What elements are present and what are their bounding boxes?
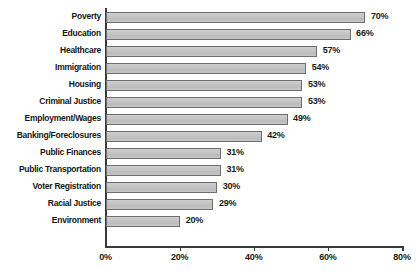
x-axis-tick-label: 0% <box>99 252 112 262</box>
category-label: Voter Registration <box>0 181 101 192</box>
horizontal-bar-chart: Poverty70%Education66%Healthcare57%Immig… <box>0 0 417 280</box>
x-axis-tick-label: 20% <box>171 252 188 262</box>
bar-row: Racial Justice29% <box>0 196 417 213</box>
category-label: Public Transportation <box>0 164 101 175</box>
bar <box>106 148 221 159</box>
bar <box>106 80 302 91</box>
bar-value-label: 70% <box>371 11 388 22</box>
bar <box>106 12 365 23</box>
bar-row: Banking/Foreclosures42% <box>0 128 417 145</box>
category-label: Banking/Foreclosures <box>0 130 101 141</box>
x-axis-tick-label: 60% <box>319 252 336 262</box>
bar-value-label: 31% <box>226 147 243 158</box>
bar <box>106 29 351 40</box>
bar <box>106 131 262 142</box>
bar-row: Healthcare57% <box>0 43 417 60</box>
bar-value-label: 54% <box>312 62 329 73</box>
bar-value-label: 20% <box>186 215 203 226</box>
bar-row: Housing53% <box>0 77 417 94</box>
figure-caption <box>14 270 414 280</box>
bar-value-label: 53% <box>308 96 325 107</box>
bar <box>106 97 302 108</box>
bar-value-label: 29% <box>219 198 236 209</box>
bar-row: Voter Registration30% <box>0 179 417 196</box>
plot-area: Poverty70%Education66%Healthcare57%Immig… <box>0 0 417 280</box>
x-axis-tick <box>402 246 404 251</box>
bar-row: Immigration54% <box>0 60 417 77</box>
category-label: Environment <box>0 215 101 226</box>
category-label: Poverty <box>0 11 101 22</box>
category-label: Healthcare <box>0 45 101 56</box>
bar-row: Criminal Justice53% <box>0 94 417 111</box>
category-label: Criminal Justice <box>0 96 101 107</box>
bar-value-label: 30% <box>223 181 240 192</box>
bar-value-label: 53% <box>308 79 325 90</box>
category-label: Immigration <box>0 62 101 73</box>
bar-row: Education66% <box>0 26 417 43</box>
bar <box>106 216 180 227</box>
bar-value-label: 49% <box>293 113 310 124</box>
category-label: Public Finances <box>0 147 101 158</box>
bar-row: Poverty70% <box>0 9 417 26</box>
x-axis-tick-label: 40% <box>245 252 262 262</box>
bar <box>106 199 213 210</box>
x-axis-tick <box>254 246 256 251</box>
category-label: Racial Justice <box>0 198 101 209</box>
bar <box>106 114 288 125</box>
bar-value-label: 31% <box>226 164 243 175</box>
bar-value-label: 42% <box>267 130 284 141</box>
bar <box>106 182 217 193</box>
bar <box>106 46 317 57</box>
bar-value-label: 57% <box>323 45 340 56</box>
x-axis-tick <box>180 246 182 251</box>
bar-row: Employment/Wages49% <box>0 111 417 128</box>
x-axis-tick <box>328 246 330 251</box>
bar <box>106 63 306 74</box>
bar-row: Public Transportation31% <box>0 162 417 179</box>
x-axis-tick-label: 80% <box>393 252 410 262</box>
category-label: Housing <box>0 79 101 90</box>
bar <box>106 165 221 176</box>
bar-value-label: 66% <box>356 28 373 39</box>
category-label: Education <box>0 28 101 39</box>
bar-row: Public Finances31% <box>0 145 417 162</box>
category-label: Employment/Wages <box>0 113 101 124</box>
bar-row: Environment20% <box>0 213 417 230</box>
